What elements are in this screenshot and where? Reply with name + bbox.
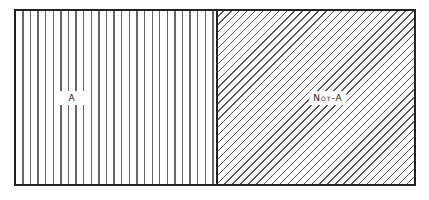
region-a: A bbox=[16, 11, 218, 184]
region-a-label: A bbox=[56, 91, 87, 105]
region-not-a: Not-A bbox=[218, 11, 414, 184]
universe-frame: A Not-A bbox=[14, 9, 416, 186]
region-not-a-label: Not-A bbox=[309, 91, 346, 105]
